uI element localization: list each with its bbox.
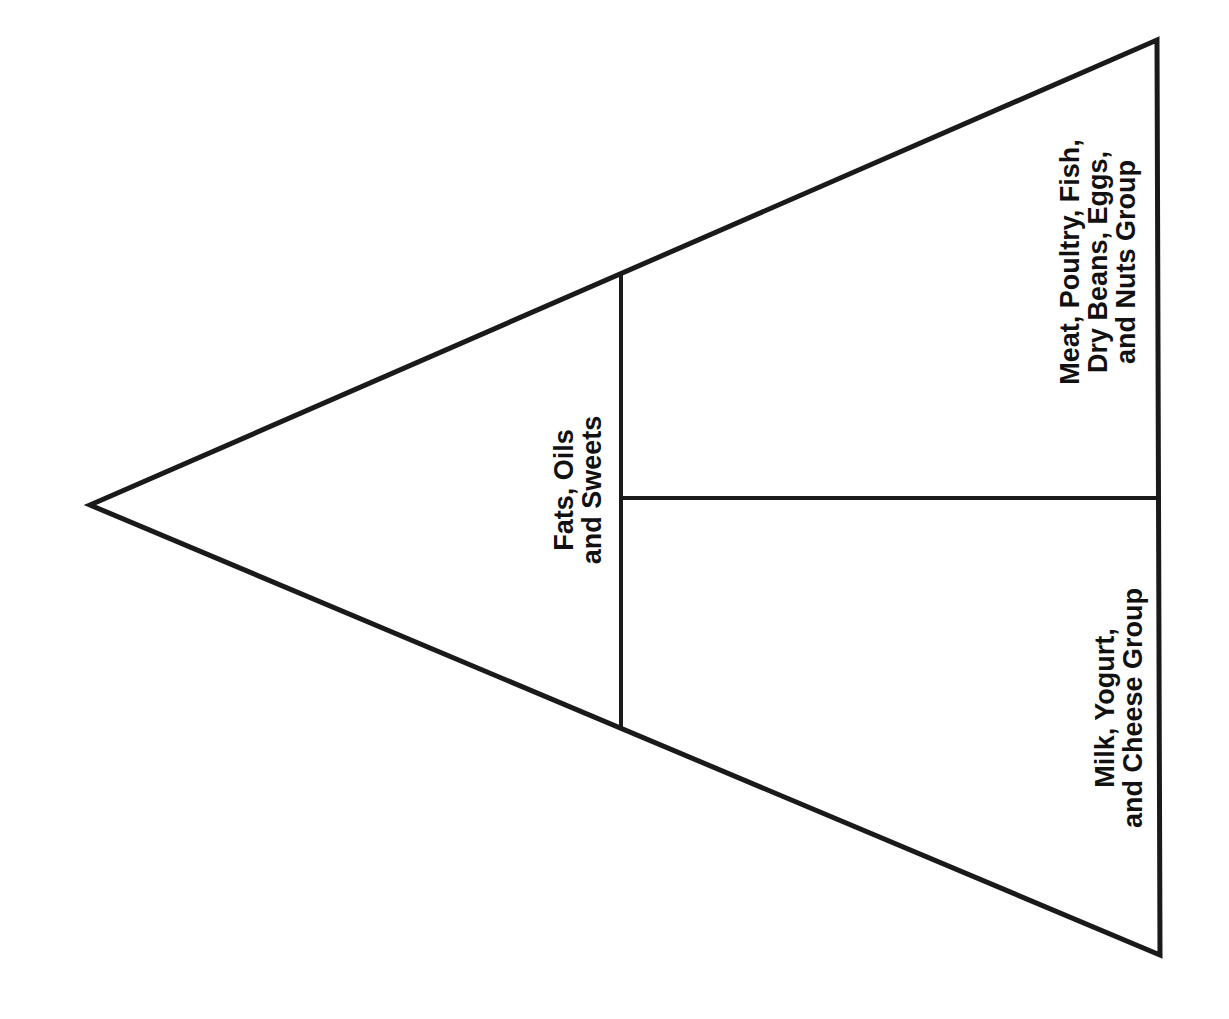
pyramid-diagram (0, 0, 1229, 1019)
label-meat-group: Meat, Poultry, Fish, Dry Beans, Eggs, an… (1056, 139, 1140, 385)
label-fats-oils-sweets: Fats, Oils and Sweets (550, 416, 606, 565)
label-milk-group: Milk, Yogurt, and Cheese Group (1091, 588, 1147, 828)
